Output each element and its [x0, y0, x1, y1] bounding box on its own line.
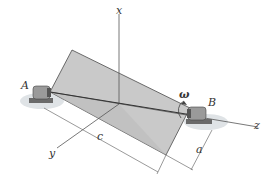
support-b-label: B: [208, 97, 216, 108]
dimension-a-extension: [166, 155, 193, 170]
dimension-c-label: c: [97, 131, 103, 142]
x-axis-label: x: [116, 5, 122, 16]
dimension-c-extension: [157, 155, 166, 174]
rotating-plate-diagram: [0, 0, 272, 188]
omega-label: ω: [179, 89, 189, 100]
y-axis-label: y: [49, 148, 55, 159]
support-a-label: A: [21, 80, 29, 91]
dimension-a-label: a: [196, 144, 203, 155]
z-axis-label: z: [254, 120, 260, 131]
